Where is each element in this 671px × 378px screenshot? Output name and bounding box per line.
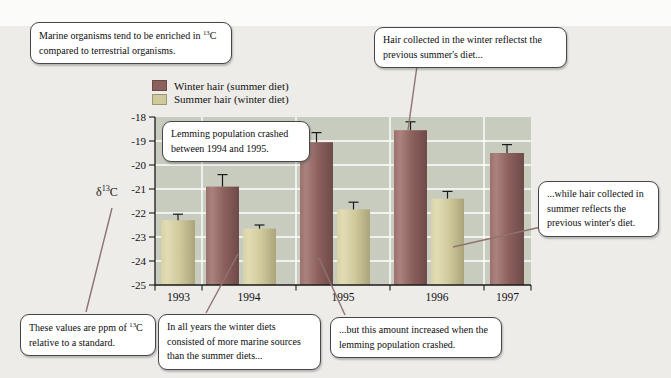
x-tick-label: 1997 bbox=[496, 291, 519, 303]
y-tick-label: -18 bbox=[131, 111, 146, 123]
bar-1995-summer bbox=[337, 209, 370, 285]
callout-winter-hair: Hair collected in the winter reflectst t… bbox=[374, 27, 567, 68]
y-tick-label: -23 bbox=[131, 231, 146, 243]
y-tick-label: -25 bbox=[131, 279, 146, 291]
legend-label-winter: Winter hair (summer diet) bbox=[174, 80, 289, 92]
legend-swatch-summer-icon bbox=[152, 94, 167, 105]
bar-1994-summer bbox=[243, 229, 276, 285]
bar-1996-winter bbox=[394, 130, 427, 285]
y-tick-label: -19 bbox=[131, 135, 146, 147]
y-tick-label: -20 bbox=[131, 159, 146, 171]
y-axis-label: δ13C bbox=[96, 184, 118, 200]
chart-legend: Winter hair (summer diet) Summer hair (w… bbox=[152, 79, 289, 106]
bar-1995-winter bbox=[300, 142, 333, 285]
callout-summer-hair: ...while hair collected in summer reflec… bbox=[538, 181, 659, 237]
legend-item-summer: Summer hair (winter diet) bbox=[152, 93, 289, 107]
x-tick-label: 1994 bbox=[238, 291, 261, 303]
legend-item-winter: Winter hair (summer diet) bbox=[152, 79, 289, 93]
x-tick-label: 1996 bbox=[426, 291, 449, 303]
legend-swatch-winter-icon bbox=[152, 80, 167, 91]
y-tick-label: -22 bbox=[131, 207, 146, 219]
callout-ppm-standard: These values are ppm of 13C relative to … bbox=[20, 314, 156, 356]
bar-1993-summer bbox=[161, 220, 195, 285]
bar-1996-summer bbox=[431, 199, 464, 285]
figure-canvas: -18-19-20-21-22-23-24-251993199419951996… bbox=[0, 0, 671, 378]
legend-label-summer: Summer hair (winter diet) bbox=[174, 93, 289, 105]
y-tick-label: -21 bbox=[131, 183, 146, 195]
callout-marine-enrichment: Marine organisms tend to be enriched in … bbox=[30, 22, 232, 64]
bar-1994-winter bbox=[206, 187, 239, 285]
y-tick-label: -24 bbox=[131, 255, 146, 267]
callout-amount-increased: ...but this amount increased when the le… bbox=[330, 317, 502, 358]
callout-lemming-crash: Lemming population crashed between 1994 … bbox=[162, 121, 310, 162]
x-tick-label: 1993 bbox=[167, 291, 190, 303]
bar-1997-winter bbox=[490, 153, 524, 285]
callout-winter-diets-marine: In all years the winter diets consisted … bbox=[158, 314, 321, 370]
